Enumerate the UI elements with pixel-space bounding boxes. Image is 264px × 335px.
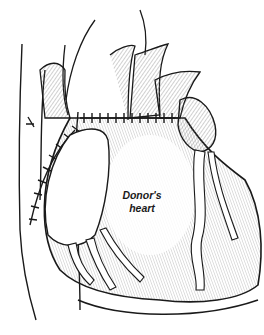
label-line-1: Donor's [112,189,172,202]
pericardium-edge [78,300,258,314]
heart-illustration [0,0,264,335]
great-vessels [40,10,200,120]
donor-heart-label: Donor's heart [112,189,172,215]
label-line-2: heart [112,202,172,215]
